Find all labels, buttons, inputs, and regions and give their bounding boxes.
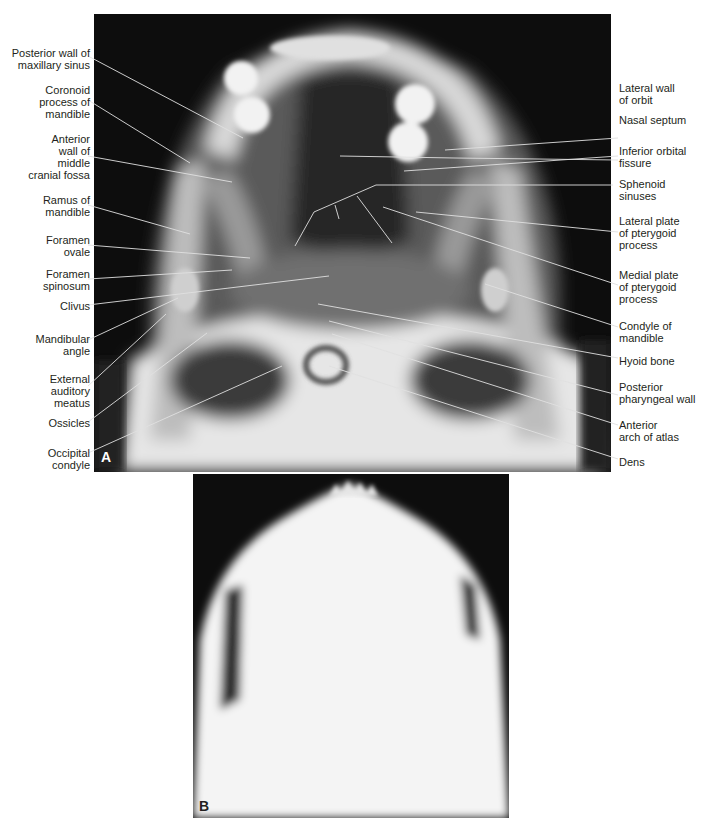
label-condyle-of-mandible: Condyle of mandible <box>619 320 713 344</box>
radiograph-panel-b <box>193 474 509 818</box>
label-sphenoid-sinuses: Sphenoid sinuses <box>619 178 713 202</box>
label-external-auditory-meatus: External auditory meatus <box>0 373 90 409</box>
label-posterior-pharyngeal-wall: Posterior pharyngeal wall <box>619 381 713 405</box>
label-nasal-septum: Nasal septum <box>619 114 713 126</box>
radiograph-panel-a <box>94 14 611 472</box>
label-coronoid-process: Coronoid process of mandible <box>0 84 90 120</box>
label-medial-plate-pterygoid: Medial plate of pterygoid process <box>619 269 713 305</box>
label-clivus: Clivus <box>0 300 90 312</box>
label-dens: Dens <box>619 456 713 468</box>
label-anterior-arch-of-atlas: Anterior arch of atlas <box>619 419 713 443</box>
label-foramen-ovale: Foramen ovale <box>0 234 90 258</box>
figure: Posterior wall of maxillary sinus Corono… <box>0 0 713 824</box>
label-ramus-of-mandible: Ramus of mandible <box>0 194 90 218</box>
label-mandibular-angle: Mandibular angle <box>0 333 90 357</box>
label-occipital-condyle: Occipital condyle <box>0 447 90 471</box>
panel-letter-a: A <box>101 449 111 465</box>
label-lateral-wall-of-orbit: Lateral wall of orbit <box>619 82 713 106</box>
label-hyoid-bone: Hyoid bone <box>619 355 713 367</box>
label-lateral-plate-pterygoid: Lateral plate of pterygoid process <box>619 215 713 251</box>
panel-letter-b: B <box>199 798 209 814</box>
label-ossicles: Ossicles <box>0 417 90 429</box>
radiograph-canvas <box>0 0 713 824</box>
label-inferior-orbital-fissure: Inferior orbital fissure <box>619 145 713 169</box>
label-anterior-wall-middle-cranial-fossa: Anterior wall of middle cranial fossa <box>0 133 90 181</box>
label-foramen-spinosum: Foramen spinosum <box>0 268 90 292</box>
label-posterior-wall-maxillary-sinus: Posterior wall of maxillary sinus <box>0 47 90 71</box>
